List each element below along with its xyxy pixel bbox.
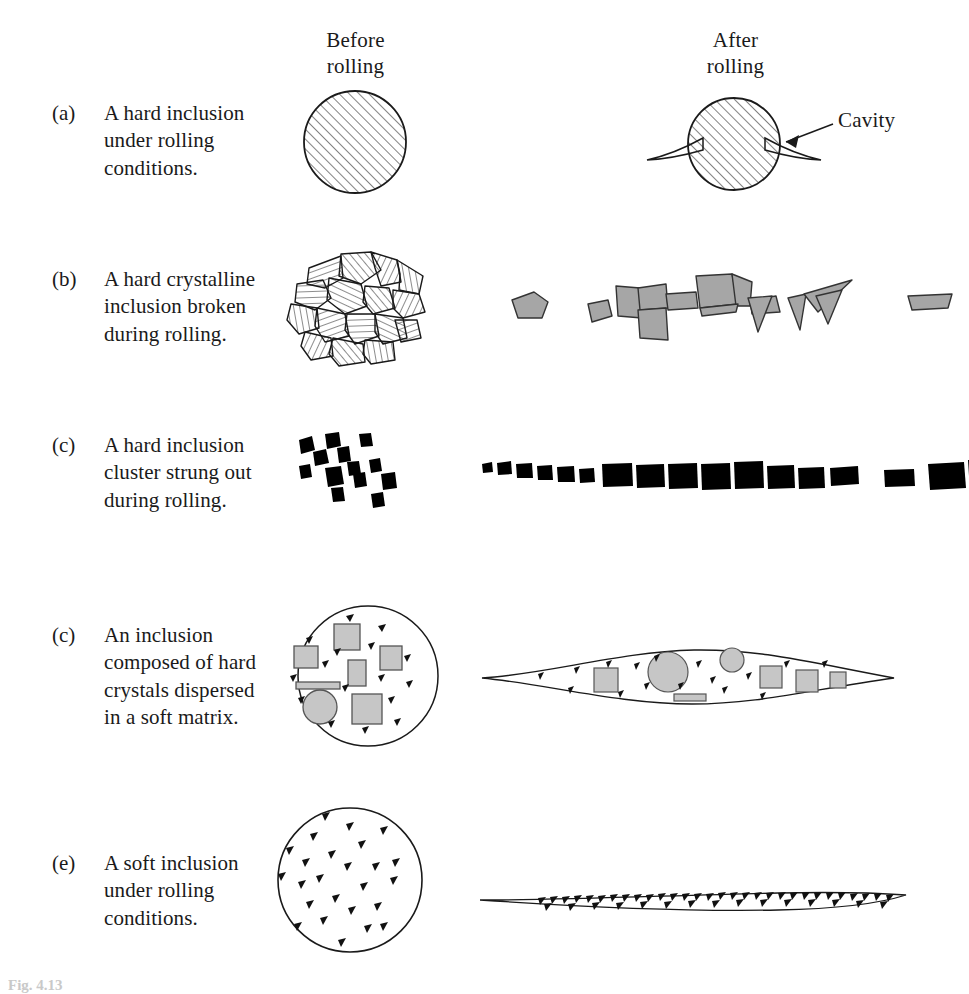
art-b-after-gray-polygon-string (500, 272, 965, 346)
soft-inclusion-circle-outline (278, 808, 422, 952)
row-tag-d: (c) (52, 622, 104, 649)
art-c-before-scattered-black-particles (285, 432, 455, 537)
row-text-b: A hard crystalline inclusion broken duri… (104, 266, 255, 348)
column-header-before-rolling: Before rolling (268, 28, 443, 79)
figure-caption: Fig. 4.13 (8, 977, 948, 994)
row-label-c: (c) A hard inclusion cluster strung out … (52, 432, 302, 514)
cavity-annotation-label: Cavity (838, 108, 895, 133)
column-header-after-rolling: After rolling (648, 28, 823, 79)
row-text-d: An inclusion composed of hard crystals d… (104, 622, 256, 731)
row-text-a: A hard inclusion under rolling condition… (104, 100, 244, 182)
art-d-after-lens-with-gray-crystals (478, 640, 898, 714)
row-text-c: A hard inclusion cluster strung out duri… (104, 432, 252, 514)
art-b-before-hatched-polygon-cluster (283, 250, 453, 370)
art-c-after-strung-black-particles (480, 452, 965, 508)
row-tag-c: (c) (52, 432, 104, 459)
row-tag-a: (a) (52, 100, 104, 127)
row-label-a: (a) A hard inclusion under rolling condi… (52, 100, 302, 182)
row-label-d: (c) An inclusion composed of hard crysta… (52, 622, 302, 731)
art-d-before-circle-with-gray-crystals (282, 602, 462, 752)
row-label-b: (b) A hard crystalline inclusion broken … (52, 266, 302, 348)
row-text-e: A soft inclusion under rolling condition… (104, 850, 239, 932)
matrix-circle-outline (298, 606, 438, 746)
row-tag-e: (e) (52, 850, 104, 877)
cavity-arrowhead-icon (786, 135, 799, 148)
inclusion-circle (688, 98, 780, 190)
row-label-e: (e) A soft inclusion under rolling condi… (52, 850, 302, 932)
art-a-before-hatched-circle (295, 80, 420, 208)
row-tag-b: (b) (52, 266, 104, 293)
art-e-after-flattened-fleck-band (478, 884, 908, 930)
art-e-before-circle-with-flecks (272, 802, 432, 960)
art-a-after-hatched-circle-with-cavities (655, 80, 965, 210)
